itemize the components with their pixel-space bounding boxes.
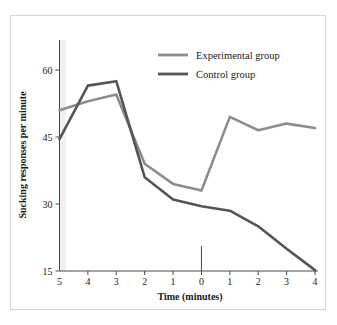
x-tick-label: 0 [199, 276, 204, 287]
legend-label-experimental-group: Experimental group [196, 50, 280, 61]
legend-label-control-group: Control group [196, 69, 255, 80]
plot-left-band [59, 40, 66, 271]
y-axis-ticks: 15304560 [43, 65, 60, 277]
x-tick-label: 2 [256, 276, 261, 287]
x-axis-title: Time (minutes) [157, 291, 222, 303]
chart-plot-area: 15304560 5432101234 Sucking responses pe… [0, 0, 337, 325]
x-tick-label: 1 [227, 276, 232, 287]
y-tick-label: 30 [43, 199, 53, 210]
chart-legend: Experimental group Control group [158, 50, 280, 80]
y-axis-title: Sucking responses per minute [17, 91, 28, 219]
y-tick-label: 45 [43, 132, 53, 143]
series-line-control-group [60, 81, 316, 270]
x-tick-label: 3 [114, 276, 119, 287]
y-tick-label: 15 [43, 266, 53, 277]
x-tick-label: 3 [284, 276, 289, 287]
x-tick-label: 2 [142, 276, 147, 287]
x-axis-ticks: 5432101234 [57, 271, 318, 287]
x-tick-label: 4 [85, 276, 90, 287]
x-tick-label: 4 [313, 276, 318, 287]
line-chart-svg: 15304560 5432101234 Sucking responses pe… [0, 0, 337, 325]
y-tick-label: 60 [43, 65, 53, 76]
x-tick-label: 5 [57, 276, 62, 287]
x-tick-label: 1 [171, 276, 176, 287]
series-line-experimental-group [60, 95, 316, 191]
